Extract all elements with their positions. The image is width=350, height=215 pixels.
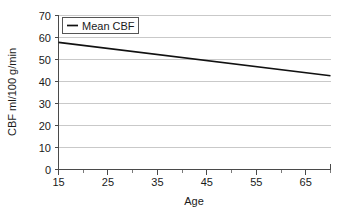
y-tick-label-60: 60 (39, 32, 51, 44)
x-tick-label-25: 25 (102, 176, 114, 188)
y-tick-label-20: 20 (39, 120, 51, 132)
x-tick-label-65: 65 (300, 176, 312, 188)
y-tick-label-50: 50 (39, 54, 51, 66)
x-tick-label-35: 35 (151, 176, 163, 188)
y-tick-labels-group: 70 60 50 40 30 20 10 0 (39, 10, 51, 176)
chart-container: 70 60 50 40 30 20 10 0 15 25 35 45 55 65… (0, 0, 350, 215)
legend: Mean CBF (63, 18, 139, 34)
legend-label-mean-cbf: Mean CBF (82, 20, 135, 32)
x-axis-title: Age (184, 195, 204, 207)
y-tick-label-0: 0 (45, 164, 51, 176)
y-tick-label-10: 10 (39, 142, 51, 154)
y-axis-title: CBF ml/100 g/min (6, 48, 18, 136)
x-tick-label-55: 55 (250, 176, 262, 188)
cbf-vs-age-line-chart: 70 60 50 40 30 20 10 0 15 25 35 45 55 65… (0, 0, 350, 215)
x-tick-labels-group: 15 25 35 45 55 65 (52, 176, 311, 188)
y-tick-marks-group (55, 16, 59, 170)
x-tick-label-45: 45 (201, 176, 213, 188)
gridlines-group (59, 16, 331, 148)
y-tick-label-70: 70 (39, 10, 51, 22)
y-tick-label-40: 40 (39, 76, 51, 88)
y-tick-label-30: 30 (39, 98, 51, 110)
x-tick-marks-group (59, 170, 331, 175)
x-tick-label-15: 15 (52, 176, 64, 188)
